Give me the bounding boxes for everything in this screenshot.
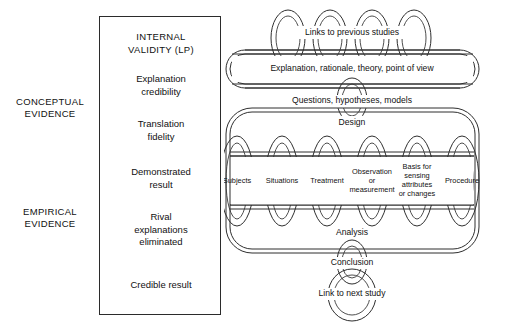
- evidence-label-empirical: EMPIRICAL EVIDENCE: [4, 206, 96, 230]
- validity-item-credible-result: Credible result: [100, 279, 222, 292]
- svg-text:Basis for: Basis for: [403, 162, 432, 171]
- svg-text:sensing: sensing: [404, 171, 429, 180]
- svg-text:measurement: measurement: [349, 185, 394, 194]
- element-label-procedure: Procedure: [445, 176, 479, 185]
- element-label-subjects: Subjects: [224, 176, 251, 185]
- diagram-canvas: CONCEPTUAL EVIDENCE EMPIRICAL EVIDENCE I…: [0, 0, 506, 332]
- band-conceptual-label: Explanation, rationale, theory, point of…: [270, 63, 434, 73]
- internal-validity-box: INTERNAL VALIDITY (LP) Explanation credi…: [99, 16, 221, 315]
- chain-svg: Links to previous studies Explanation, r…: [224, 0, 506, 332]
- svg-text:or changes: or changes: [399, 189, 436, 198]
- svg-text:Observation: Observation: [352, 167, 392, 176]
- connector-upper-label: Questions, hypotheses, models: [292, 95, 412, 105]
- top-link-rings: [232, 10, 473, 88]
- svg-text:or: or: [369, 176, 376, 185]
- band-design-label: Design: [339, 117, 366, 127]
- validity-item-rival-explanations: Rival explanations eliminated: [100, 211, 222, 249]
- bottom-link-label: Link to next study: [319, 288, 387, 298]
- connector-lower-label: Conclusion: [331, 257, 374, 267]
- validity-item-demonstrated-result: Demonstrated result: [100, 166, 222, 191]
- top-link-label: Links to previous studies: [305, 27, 399, 37]
- internal-validity-title: INTERNAL VALIDITY (LP): [100, 31, 222, 56]
- svg-text:attributes: attributes: [402, 180, 433, 189]
- validity-item-translation-fidelity: Translation fidelity: [100, 118, 222, 143]
- element-label-basis-for-sensing: Basis for sensing attributes or changes: [399, 162, 436, 198]
- band-analysis-label: Analysis: [336, 227, 368, 237]
- chain-link-diagram: Links to previous studies Explanation, r…: [224, 0, 506, 332]
- element-label-treatment: Treatment: [310, 176, 343, 185]
- validity-item-explanation-credibility: Explanation credibility: [100, 73, 222, 98]
- element-label-situations: Situations: [266, 176, 299, 185]
- evidence-label-conceptual: CONCEPTUAL EVIDENCE: [4, 96, 96, 120]
